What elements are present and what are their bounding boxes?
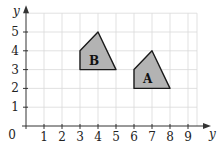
x-tick-label: 8 <box>166 130 174 144</box>
y-tick-label: 4 <box>11 44 19 58</box>
y-tick-label: 5 <box>11 25 19 39</box>
x-axis-label: y <box>208 127 216 141</box>
y-tick-label: 2 <box>11 81 19 95</box>
x-tick-label: 9 <box>184 130 192 144</box>
x-tick-label: 3 <box>76 130 84 144</box>
shapes: AB <box>80 32 170 88</box>
y-tick-label: 3 <box>11 63 19 77</box>
shape-label-b: B <box>89 54 99 68</box>
axes <box>22 5 211 129</box>
x-tick-label: 6 <box>130 130 138 144</box>
coordinate-grid-diagram: AB 123456789123450yy y y <box>0 0 223 149</box>
shape-label-a: A <box>142 72 153 86</box>
y-axis-arrow-icon <box>23 5 29 13</box>
origin-label: 0 <box>8 128 16 142</box>
x-tick-label: 4 <box>94 130 102 144</box>
x-tick-label: 1 <box>40 130 48 144</box>
y-axis-label: y <box>12 4 20 18</box>
x-tick-label: 7 <box>148 130 156 144</box>
x-tick-label: 2 <box>58 130 66 144</box>
x-tick-label: 5 <box>112 130 120 144</box>
plot-area: AB 123456789123450yy <box>0 0 223 149</box>
tick-labels: 123456789123450yy <box>8 4 216 144</box>
y-tick-label: 1 <box>11 100 19 114</box>
